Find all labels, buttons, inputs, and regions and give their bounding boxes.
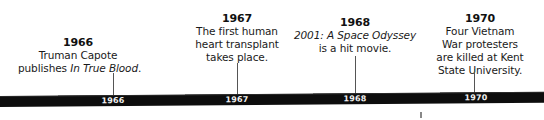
tick-mark	[420, 112, 422, 118]
event-text-line: State University.	[422, 64, 538, 77]
bar-label-1966: 1966	[101, 95, 124, 106]
event-text-line: are killed at Kent	[422, 51, 538, 64]
movie-title: 2001: A Space Odyssey	[294, 29, 416, 41]
event-text-line: 2001: A Space Odyssey	[290, 29, 420, 42]
event-text-fragment: .	[138, 62, 141, 74]
event-text-line: heart transplant	[177, 38, 297, 51]
bar-label-1968: 1968	[343, 93, 366, 104]
event-text-line: is a hit movie.	[290, 42, 420, 55]
connector-line-1968	[355, 56, 356, 94]
bar-label-1970: 1970	[464, 92, 487, 103]
event-year: 1968	[290, 16, 420, 29]
event-1967: 1967 The first human heart transplant ta…	[177, 12, 297, 64]
connector-line-1967	[237, 63, 238, 95]
event-year: 1970	[422, 12, 538, 25]
event-text-line: Four Vietnam	[422, 25, 538, 38]
event-text-line: publishes In True Blood.	[18, 62, 138, 75]
event-text-line: War protesters	[422, 38, 538, 51]
event-text-line: Truman Capote	[18, 49, 138, 62]
event-1966: 1966 Truman Capote publishes In True Blo…	[18, 36, 138, 75]
connector-line-1966	[113, 73, 114, 97]
event-1968: 1968 2001: A Space Odyssey is a hit movi…	[290, 16, 420, 55]
bar-label-1967: 1967	[225, 94, 248, 105]
event-year: 1967	[177, 12, 297, 25]
event-text-line: The first human	[177, 25, 297, 38]
timeline-bar: 1966 1967 1968 1970	[0, 92, 544, 107]
event-text-fragment: publishes	[18, 62, 70, 74]
event-year: 1966	[18, 36, 138, 49]
connector-line-1970	[474, 69, 475, 93]
book-title: In True Blood	[70, 62, 138, 74]
event-1970: 1970 Four Vietnam War protesters are kil…	[422, 12, 538, 77]
